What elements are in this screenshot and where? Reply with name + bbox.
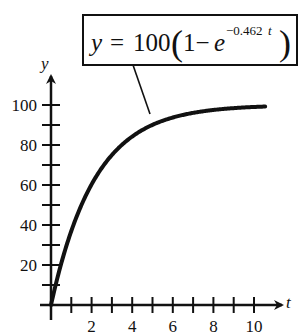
y-tick-label: 100 <box>12 96 38 115</box>
y-tick-label: 20 <box>20 256 37 275</box>
eq-close-paren: ) <box>279 23 291 63</box>
y-axis-tick-labels: 20406080100 <box>12 96 38 275</box>
eq-lhs: y <box>88 29 103 56</box>
chart-canvas: 246810 20406080100 t y y = 100 ( 1− e −0… <box>0 0 300 336</box>
x-tick-label: 6 <box>169 317 178 336</box>
x-tick-label: 10 <box>246 317 263 336</box>
x-tick-label: 8 <box>209 317 218 336</box>
y-tick-label: 80 <box>20 136 37 155</box>
eq-coef: 100 <box>133 29 171 56</box>
eq-exponent-var: t <box>268 23 272 38</box>
eq-open-paren: ( <box>171 23 183 63</box>
eq-equals: = <box>110 29 124 56</box>
x-tick-label: 4 <box>128 317 137 336</box>
y-tick-label: 40 <box>20 216 37 235</box>
eq-base: e <box>214 29 225 56</box>
y-tick-label: 60 <box>20 176 37 195</box>
x-axis-label: t <box>286 293 292 312</box>
annotation-leader-line <box>133 65 150 114</box>
exponential-curve <box>51 107 265 305</box>
y-axis-label: y <box>39 54 49 73</box>
eq-exponent: −0.462 <box>226 23 263 38</box>
eq-one-minus: 1− <box>183 29 210 56</box>
x-tick-label: 2 <box>87 317 96 336</box>
x-axis-tick-labels: 246810 <box>87 317 262 336</box>
